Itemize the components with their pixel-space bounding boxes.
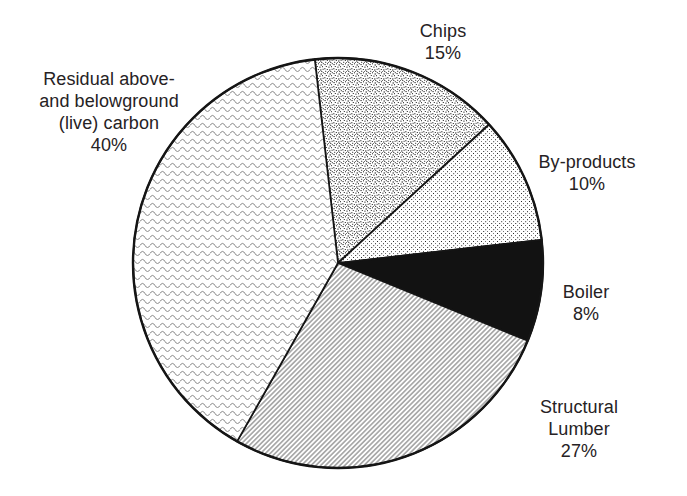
- slice-label-residual: Residual above- and belowground (live) c…: [39, 68, 179, 156]
- slice-label-chips: Chips 15%: [420, 20, 467, 64]
- pie-chart-figure: Chips 15% Residual above- and belowgroun…: [0, 0, 687, 496]
- slice-label-structural: Structural Lumber 27%: [525, 396, 633, 462]
- slice-label-boiler: Boiler 8%: [563, 281, 610, 325]
- pie-slices-group: [133, 58, 543, 468]
- slice-label-byproducts: By-products 10%: [538, 151, 635, 195]
